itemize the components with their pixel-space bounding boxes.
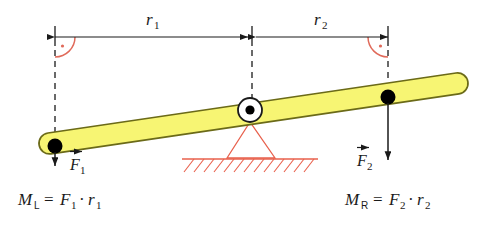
left-eq-force: F [59,190,71,209]
f1-subscript: 1 [80,164,86,176]
right-force-point [381,90,396,105]
f2-subscript: 2 [367,160,373,172]
lever-diagram-canvas: r 1 r 2 [0,0,490,225]
force-labels: F 1 F 2 [69,148,373,177]
left-eq-radius: r [88,190,95,209]
pivot [238,98,262,122]
right-eq-radius: r [417,190,424,209]
r1-label: r [146,10,153,29]
pivot-center-dot [245,105,254,114]
right-angle-markers [55,37,388,57]
right-moment-equation: M R = F 2 · r 2 [344,190,431,211]
left-eq-force-sub: 1 [71,199,77,211]
f2-label: F [356,152,367,169]
left-eq-moment-sub: L [34,200,40,211]
right-eq-moment: M [344,190,360,209]
left-eq-equals: = [44,190,54,209]
right-eq-radius-sub: 2 [425,199,431,211]
right-eq-equals: = [373,190,383,209]
left-eq-moment: M [17,190,33,209]
hatch-strokes [184,159,314,172]
r1-subscript: 1 [154,19,160,31]
right-angle-arc-right [368,37,388,57]
left-eq-dot: · [79,190,85,209]
lever-diagram: r 1 r 2 [0,0,490,225]
right-angle-arc-left [55,37,75,57]
dimension-labels: r 1 r 2 [146,10,328,31]
f1-label: F [69,156,80,173]
left-moment-equation: M L = F 1 · r 1 [17,190,102,211]
left-force-point [48,139,63,154]
r2-subscript: 2 [322,19,328,31]
right-eq-force: F [388,190,400,209]
left-eq-radius-sub: 1 [96,199,102,211]
right-angle-dot-right [379,44,382,47]
right-angle-dot-left [61,44,64,47]
ground-hatching [182,159,318,172]
right-eq-force-sub: 2 [400,199,406,211]
r2-label: r [314,10,321,29]
right-eq-dot: · [408,190,414,209]
right-eq-moment-sub: R [361,200,368,211]
